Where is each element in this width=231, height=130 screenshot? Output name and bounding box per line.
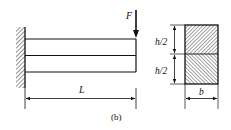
top-layer [185,25,218,54]
load-label: F [125,10,133,21]
cantilever-beam [25,39,136,72]
bottom-height-label: h/2 [155,66,167,76]
bottom-layer [185,54,218,84]
length-label: L [78,84,85,95]
load-force-arrow [133,10,139,38]
height-dimension [170,25,185,84]
top-height-label: h/2 [155,37,167,47]
figure-caption: (b) [111,112,122,122]
figure-canvas: F L (b) h/2 h/2 b [0,0,231,130]
width-label: b [199,87,204,97]
cross-section [185,25,218,84]
fixed-wall-support [16,27,25,88]
